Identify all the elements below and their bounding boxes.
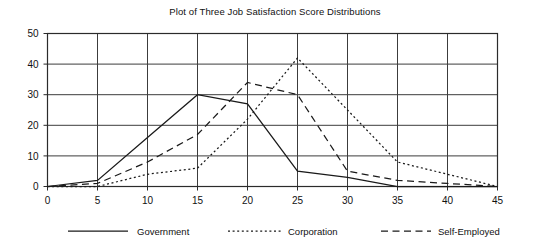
data-series-group [48,58,498,187]
x-tick-label: 0 [45,195,51,206]
chart-title: Plot of Three Job Satisfaction Score Dis… [0,6,550,17]
series-line-self-employed [48,82,498,186]
x-tick-label: 35 [392,195,404,206]
y-tick-label: 40 [27,59,39,70]
x-axis-tick-labels: 051015202530354045 [45,187,504,206]
x-tick-label: 45 [492,195,504,206]
y-tick-label: 30 [27,89,39,100]
series-line-corporation [48,58,498,187]
plot-border [48,34,498,187]
x-tick-label: 10 [142,195,154,206]
x-tick-label: 40 [442,195,454,206]
x-tick-label: 15 [192,195,204,206]
y-tick-label: 10 [27,151,39,162]
x-tick-label: 25 [292,195,304,206]
y-tick-label: 20 [27,120,39,131]
chart-legend: GovernmentCorporationSelf-Employed [68,226,500,237]
x-tick-label: 20 [242,195,254,206]
gridlines [48,34,498,187]
legend-label-corporation: Corporation [288,226,338,237]
legend-label-self-employed: Self-Employed [438,226,500,237]
legend-label-government: Government [137,226,190,237]
x-tick-label: 5 [95,195,101,206]
chart-container: Plot of Three Job Satisfaction Score Dis… [0,0,550,246]
x-tick-label: 30 [342,195,354,206]
y-tick-label: 50 [27,28,39,39]
series-line-government [48,95,498,187]
plot-frame [48,34,498,187]
y-tick-label: 0 [33,181,39,192]
y-axis-tick-labels: 01020304050 [27,28,47,192]
chart-plot-area: 01020304050 051015202530354045 Governmen… [0,0,550,246]
